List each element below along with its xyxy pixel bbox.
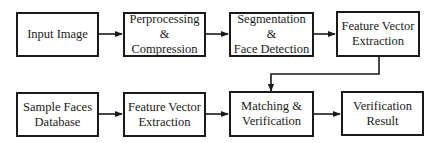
node-segmentation: Segmentation & Face Detection <box>229 12 314 57</box>
node-feature-extraction-1: Feature Vector Extraction <box>336 11 420 57</box>
node-label: Input Image <box>27 27 88 42</box>
node-label: Sample Faces Database <box>23 100 92 130</box>
node-label: Feature Vector Extraction <box>341 19 414 49</box>
node-label: Feature Vector Extraction <box>128 100 201 130</box>
node-matching-verification: Matching & Verification <box>229 91 314 137</box>
node-sample-faces-database: Sample Faces Database <box>16 92 99 137</box>
node-label: Verification Result <box>353 99 412 129</box>
node-label: Perprocessing & Compression <box>127 12 202 57</box>
node-feature-extraction-2: Feature Vector Extraction <box>123 92 206 137</box>
node-label: Matching & Verification <box>241 99 302 129</box>
node-verification-result: Verification Result <box>341 91 424 136</box>
face-verification-diagram: Input Image Perprocessing & Compression … <box>0 0 440 143</box>
edge-feature-extraction-to-matching <box>271 57 379 91</box>
node-label: Segmentation & Face Detection <box>233 12 310 57</box>
node-preprocessing: Perprocessing & Compression <box>123 12 206 57</box>
node-input-image: Input Image <box>16 12 99 57</box>
